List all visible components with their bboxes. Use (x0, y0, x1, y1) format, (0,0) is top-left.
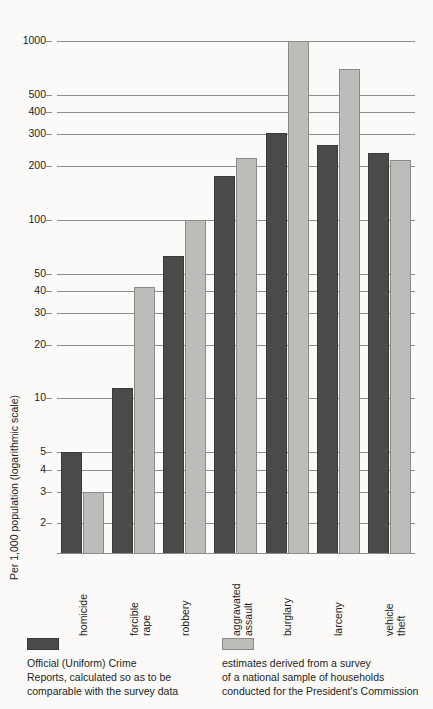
legend-label: Official (Uniform) CrimeReports, calcula… (27, 656, 178, 698)
bar-group (262, 30, 313, 554)
x-axis-category-label-line: aggravated (230, 556, 242, 636)
x-axis-category: robbery (159, 556, 210, 636)
y-axis-tick-label: 1000 (23, 35, 46, 45)
y-axis-tick-mark (46, 112, 52, 113)
y-axis-tick-label: 100 (28, 214, 46, 224)
bar (61, 452, 82, 554)
x-axis-category-label-line: larceny (332, 556, 344, 636)
y-axis-tick-mark (46, 523, 52, 524)
y-axis-tick-label: 200 (28, 160, 46, 170)
bar-group (57, 30, 108, 554)
x-axis-category-label-line: theft (395, 556, 407, 636)
y-axis-tick-label: 5 (40, 446, 46, 456)
y-axis-tick-mark (46, 313, 52, 314)
legend-label-line: conducted for the President's Commission (222, 684, 418, 698)
y-axis-tick-mark (46, 470, 52, 471)
x-axis-category: homicide (57, 556, 108, 636)
x-axis-category-label: vehicletheft (383, 556, 407, 636)
bar (214, 176, 235, 554)
x-axis-category-label: forciblerape (128, 556, 152, 636)
y-axis-tick-mark (46, 166, 52, 167)
x-axis-category-label: larceny (332, 556, 344, 636)
legend-swatch (27, 638, 59, 650)
bar (288, 41, 309, 554)
bar-group (108, 30, 159, 554)
legend-swatch (222, 638, 254, 650)
chart-legend: Official (Uniform) CrimeReports, calcula… (0, 638, 433, 709)
y-axis-tick-mark (46, 492, 52, 493)
x-axis-category-label-line: rape (140, 556, 152, 636)
y-axis-tick-label: 40 (34, 285, 46, 295)
bar-group (159, 30, 210, 554)
bar-group (364, 30, 415, 554)
y-axis-tick-label: 30 (34, 307, 46, 317)
x-axis-category-label: homicide (77, 556, 89, 636)
y-axis-tick-mark (46, 345, 52, 346)
chart-page: 100050040030020010050403020105432 homici… (0, 0, 433, 709)
bar (236, 158, 257, 554)
y-axis-tick-label: 500 (28, 89, 46, 99)
y-axis-tick-mark (46, 134, 52, 135)
y-axis-tick-mark (46, 274, 52, 275)
x-axis-category-label-line: forcible (128, 556, 140, 636)
legend-label-line: estimates derived from a survey (222, 656, 418, 670)
y-axis-title: Per 1,000 population (logarithmic scale) (8, 380, 26, 580)
x-axis-category-labels: homicideforcibleraperobberyaggravatedass… (57, 556, 415, 636)
bar (390, 160, 411, 554)
y-axis-tick-label: 4 (40, 464, 46, 474)
x-axis-category-label-line: assault (242, 556, 254, 636)
bar (185, 220, 206, 554)
x-axis-category-label-line: robbery (179, 556, 191, 636)
legend-label: estimates derived from a surveyof a nati… (222, 656, 418, 698)
x-axis-category: forciblerape (108, 556, 159, 636)
legend-item: Official (Uniform) CrimeReports, calcula… (27, 638, 178, 698)
y-axis-tick-mark (46, 41, 52, 42)
y-axis-tick-mark (46, 291, 52, 292)
x-axis-category-label-line: burglary (281, 556, 293, 636)
x-axis-baseline (57, 553, 415, 554)
y-axis-tick-label: 2 (40, 517, 46, 527)
x-axis-category-label: burglary (281, 556, 293, 636)
y-axis-tick-mark (46, 95, 52, 96)
y-axis-tick-label: 10 (34, 392, 46, 402)
x-axis-category-label: aggravatedassault (230, 556, 254, 636)
bar (368, 153, 389, 554)
x-axis-category: burglary (262, 556, 313, 636)
y-axis-tick-label: 50 (34, 268, 46, 278)
bar (134, 287, 155, 554)
bar (266, 133, 287, 554)
bar (317, 145, 338, 554)
y-axis-tick-mark (46, 452, 52, 453)
y-axis-tick-label: 3 (40, 486, 46, 496)
legend-label-line: Reports, calculated so as to be (27, 670, 178, 684)
bar (163, 256, 184, 554)
plot-area (57, 30, 415, 554)
y-axis-tick-mark (46, 398, 52, 399)
x-axis-category: larceny (313, 556, 364, 636)
x-axis-category-label: robbery (179, 556, 191, 636)
x-axis-category: vehicletheft (364, 556, 415, 636)
bar (112, 388, 133, 554)
bar (83, 492, 104, 554)
x-axis-category: aggravatedassault (210, 556, 261, 636)
y-axis-tick-label: 20 (34, 339, 46, 349)
legend-label-line: Official (Uniform) Crime (27, 656, 178, 670)
legend-item: estimates derived from a surveyof a nati… (222, 638, 418, 698)
y-axis-title-text: Per 1,000 population (logarithmic scale) (8, 380, 20, 580)
legend-label-line: comparable with the survey data (27, 684, 178, 698)
y-axis-tick-mark (46, 220, 52, 221)
x-axis-category-label-line: vehicle (383, 556, 395, 636)
y-axis-tick-label: 400 (28, 106, 46, 116)
legend-label-line: of a national sample of households (222, 670, 418, 684)
bar-group (210, 30, 261, 554)
y-axis-tick-label: 300 (28, 128, 46, 138)
x-axis-category-label-line: homicide (77, 556, 89, 636)
bar-group (313, 30, 364, 554)
bar (339, 69, 360, 554)
